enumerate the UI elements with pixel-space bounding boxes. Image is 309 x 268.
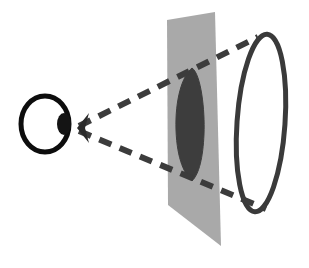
pupil xyxy=(57,113,71,135)
diagram-canvas xyxy=(0,0,309,268)
projection-diagram xyxy=(0,0,309,268)
